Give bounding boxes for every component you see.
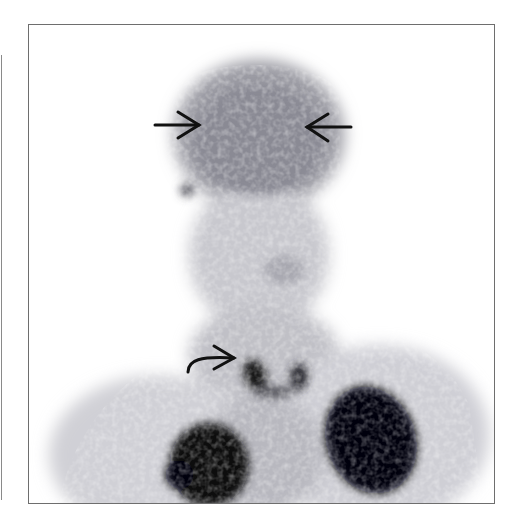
adjacent-panel-edge [1,55,2,500]
scintigraphy-panel [28,24,495,504]
scintigraphy-image [29,25,494,503]
